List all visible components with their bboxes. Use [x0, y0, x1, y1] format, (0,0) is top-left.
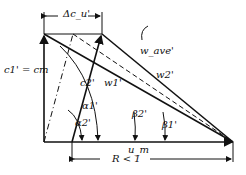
label-c1-cm: c1' = cm — [4, 65, 49, 75]
w1-vector — [44, 34, 233, 142]
label-c2: c2' — [80, 78, 95, 88]
label-alpha1: α1' — [82, 101, 98, 111]
label-reaction: R < 1 — [112, 154, 141, 164]
label-alpha2: α2' — [75, 118, 91, 128]
label-beta1: β1' — [162, 120, 177, 130]
label-w2: w2' — [156, 70, 174, 80]
label-w-ave: w_ave' — [140, 46, 174, 56]
label-delta-cu: Δc_u' — [63, 9, 90, 19]
velocity-triangle-diagram — [0, 0, 246, 175]
label-beta2: β2' — [132, 109, 147, 119]
label-w1: w1' — [104, 78, 122, 88]
